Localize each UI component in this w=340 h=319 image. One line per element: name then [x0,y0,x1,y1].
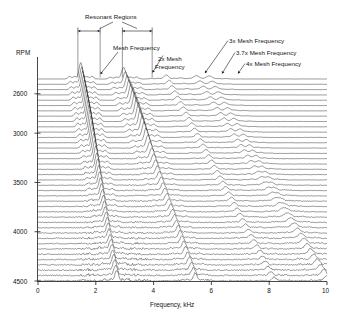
waterfall-chart-figure: Resonant Regions Mesh Frequency 2x Mesh … [0,0,340,319]
x-tick-label: 8 [267,287,271,294]
annotation-4x-mesh: 4x Mesh Frequency [246,60,301,67]
annotation-2x-mesh-line2: Frequency [155,63,185,70]
x-tick-label: 4 [152,287,156,294]
annotation-mesh-frequency: Mesh Frequency [113,44,160,51]
y-tick-label: 3000 [13,130,27,137]
spectra-traces [38,63,327,282]
x-tick-label: 10 [322,287,329,294]
x-tick-label: 0 [36,287,40,294]
y-tick-label: 3500 [13,179,27,186]
x-tick-label: 2 [94,287,98,294]
x-tick-label: 6 [209,287,213,294]
annotation-3x-mesh: 3x Mesh Frequency [229,37,284,44]
y-axis-title: RPM [16,49,30,56]
annotation-resonant-regions: Resonant Regions [85,13,137,20]
annotation-2x-mesh-line1: 2x Mesh [158,55,182,62]
y-tick-label: 2600 [13,90,27,97]
plot-canvas [0,0,340,319]
axes-layer [35,57,328,285]
x-axis-title: Frequency, kHz [150,301,194,308]
annotation-3.7x-mesh: 3.7x Mesh Frequency [236,49,296,56]
y-tick-label: 4500 [13,278,27,285]
y-tick-label: 4000 [13,228,27,235]
